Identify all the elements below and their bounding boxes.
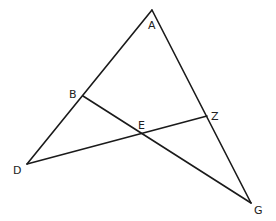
label-z: Z [211,110,219,123]
label-b: B [69,88,77,101]
segment-ag [152,10,251,203]
label-a: A [148,19,156,32]
segment-ad [27,10,152,164]
geometry-diagram: A B E Z D G [0,0,276,221]
segment-bg [83,96,251,203]
label-g: G [254,204,263,217]
label-d: D [13,164,21,177]
segment-dz [27,116,207,164]
label-e: E [138,119,145,132]
